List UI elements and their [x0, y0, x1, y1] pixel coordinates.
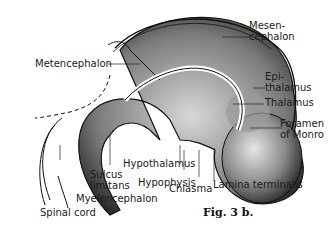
label-mesencephalon-1: Mesen-: [249, 21, 285, 31]
label-myelencephalon: Myelencephalon: [76, 194, 158, 204]
label-hypothalamus: Hypothalamus: [123, 159, 196, 169]
label-metencephalon: Metencephalon: [35, 59, 112, 69]
label-epithalamus-1: Epi-: [265, 72, 284, 82]
label-sulcus-1: Sulcus: [90, 170, 123, 180]
label-foramen-1: Foramen: [280, 119, 324, 129]
label-mesencephalon-2: cephalon: [249, 32, 295, 42]
label-foramen-2: of Monro: [280, 130, 324, 140]
label-epithalamus-2: thalamus: [265, 83, 312, 93]
label-sulcus-2: limitans: [90, 181, 130, 191]
label-thalamus: Thalamus: [265, 98, 314, 108]
figure-caption: Fig. 3 b.: [203, 206, 253, 219]
label-spinal-cord: Spinal cord: [40, 208, 96, 218]
label-lamina-terminalis: Lamina terminalis: [213, 180, 303, 190]
label-chiasma: Chiasma: [169, 184, 212, 194]
